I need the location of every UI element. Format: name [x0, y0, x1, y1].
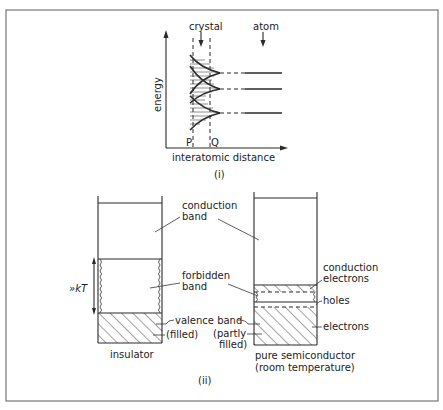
insulator-label: insulator [110, 349, 155, 360]
forbidden-band-label-1: forbidden [182, 270, 230, 281]
valence-band-label: valence band [175, 315, 242, 326]
caption-ii: (ii) [198, 375, 211, 386]
atom-label: atom [253, 21, 279, 32]
q-label: Q [211, 137, 219, 148]
conduction-electrons-strip [254, 285, 317, 292]
p-label: P [186, 137, 192, 148]
crystal-label: crystal [189, 21, 223, 32]
holes-label: holes [323, 295, 350, 306]
semiconductor-label-1: pure semiconductor [255, 350, 356, 361]
conduction-electrons-label-1: conduction [323, 262, 378, 273]
kt-label: »kT [69, 283, 88, 294]
conduction-band-label-2: band [182, 211, 207, 222]
partly-label-1: (partly [213, 328, 246, 339]
forbidden-band-label-2: band [182, 281, 207, 292]
x-axis-label: interatomic distance [172, 152, 275, 163]
valence-band-partly-filled [254, 307, 317, 345]
y-axis-label: energy [152, 77, 163, 112]
partly-label-2: filled) [219, 339, 247, 350]
caption-i: (i) [214, 169, 225, 180]
band-theory-diagram: crystal atom P Q interatomic distance en… [0, 0, 443, 410]
filled-label: (filled) [166, 329, 198, 340]
electrons-label: electrons [323, 321, 369, 332]
conduction-band-label-1: conduction [182, 200, 237, 211]
conduction-electrons-label-2: electrons [323, 273, 369, 284]
valence-band-filled [98, 313, 162, 343]
semiconductor-label-2: (room temperature) [255, 362, 355, 373]
